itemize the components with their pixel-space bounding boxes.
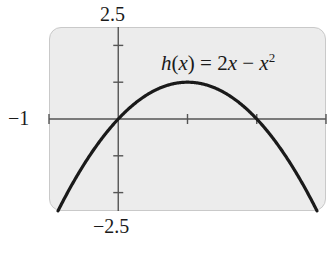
function-curve <box>58 82 317 211</box>
variable: x <box>259 51 268 75</box>
minus-sign: − <box>237 51 259 75</box>
plot-area <box>0 0 330 261</box>
xmin-label: −1 <box>8 108 29 128</box>
exponent: 2 <box>269 50 276 65</box>
variable: x <box>228 51 237 75</box>
paren-open: ( <box>172 51 179 75</box>
ymin-label: −2.5 <box>93 216 129 236</box>
paren-close: ) <box>188 51 195 75</box>
function-label: h(x) = 2x − x2 <box>161 53 275 74</box>
equals-coef: = 2 <box>195 51 228 75</box>
ymax-label: 2.5 <box>100 4 125 24</box>
function-name: h <box>161 51 172 75</box>
variable: x <box>179 51 188 75</box>
